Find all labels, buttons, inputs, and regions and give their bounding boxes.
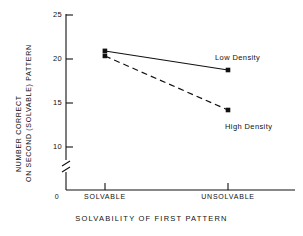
x-axis-title: SOLVABILITY OF FIRST PATTERN [0, 214, 303, 223]
data-point-low-density-unsolvable [226, 68, 231, 73]
x-tick-label-unsolvable: UNSOLVABLE [188, 193, 268, 200]
y-tick-label-20: 20 [40, 54, 62, 63]
series-line-high-density [105, 56, 228, 110]
chart-figure: 25 20 15 10 0 SOLVABLE UNSOLVABLE NUMBER… [0, 0, 303, 236]
y-tick-label-15: 15 [40, 98, 62, 107]
y-tick-label-25: 25 [40, 10, 62, 19]
data-point-low-density-solvable [103, 49, 108, 54]
y-axis-break-icon [62, 161, 70, 172]
series-label-high-density: High Density [225, 122, 272, 131]
x-origin-label: 0 [48, 193, 66, 200]
series-label-low-density: Low Density [215, 53, 260, 62]
x-tick-label-solvable: SOLVABLE [70, 193, 140, 200]
chart-canvas [0, 0, 303, 236]
series-line-low-density [105, 51, 228, 70]
y-axis-title-line-2: ON SECOND (SOLVABLE) PATTERN [25, 44, 32, 182]
y-tick-label-10: 10 [40, 142, 62, 151]
data-point-high-density-solvable [103, 54, 108, 59]
data-point-high-density-unsolvable [226, 108, 231, 113]
y-axis-title-line-1: NUMBER CORRECT [15, 95, 22, 172]
